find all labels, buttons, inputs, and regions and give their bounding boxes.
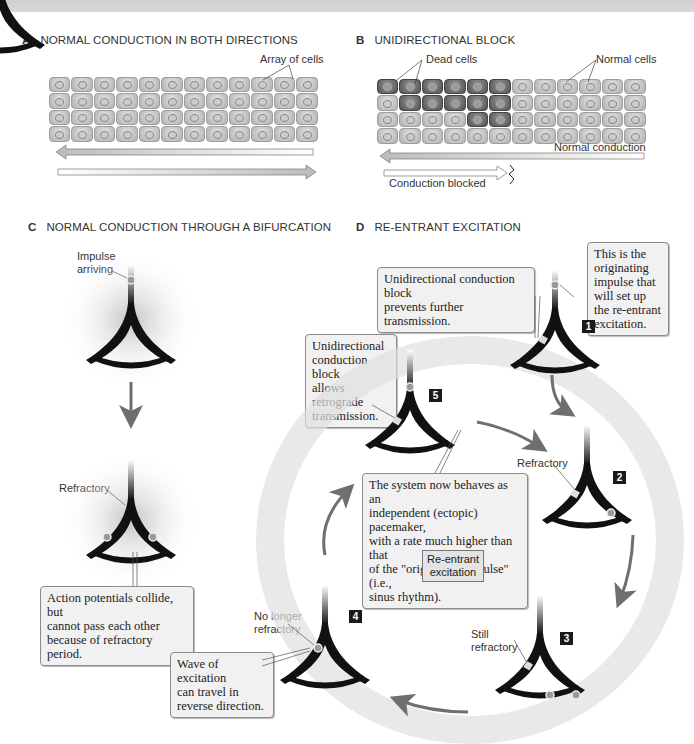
bifurcation-step-3 bbox=[495, 595, 585, 699]
array-leader-lines bbox=[263, 65, 293, 80]
bifurcation-fiber bbox=[0, 0, 45, 54]
diagram-graphics bbox=[0, 0, 694, 744]
bifurcation-step-2 bbox=[542, 425, 632, 529]
bidirectional-arrows bbox=[56, 145, 316, 179]
unidirectional-arrows bbox=[380, 149, 644, 184]
